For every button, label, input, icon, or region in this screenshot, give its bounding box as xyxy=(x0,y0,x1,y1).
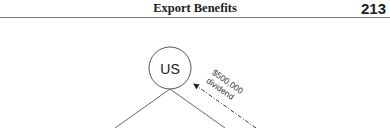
dividend-label: $500,000 dividend xyxy=(205,67,246,104)
us-node: US xyxy=(149,47,191,89)
ownership-diagram: US $500,000 dividend xyxy=(0,0,390,128)
edge-us-lower-left xyxy=(115,89,170,128)
us-node-label: US xyxy=(160,61,179,77)
edge-us-lower-right xyxy=(170,89,225,128)
